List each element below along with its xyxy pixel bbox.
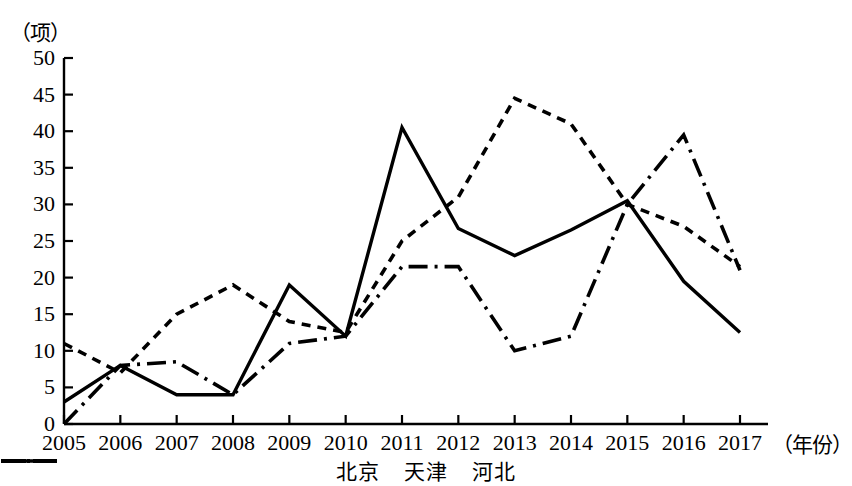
legend-item-天津[interactable]: 天津 xyxy=(404,455,448,485)
data-series xyxy=(64,98,740,424)
legend-swatch-dashdot xyxy=(0,455,58,467)
legend-label: 河北 xyxy=(472,455,516,485)
legend-label: 北京 xyxy=(336,455,380,485)
legend-item-北京[interactable]: 北京 xyxy=(336,455,380,485)
series-line-河北 xyxy=(64,135,740,424)
line-chart: （项） （年份） 05101520253035404550 2005200620… xyxy=(0,0,852,486)
axes xyxy=(64,58,768,424)
plot-area xyxy=(0,0,852,486)
legend-label: 天津 xyxy=(404,455,448,485)
chart-legend: 北京天津河北 xyxy=(0,455,852,485)
legend-item-河北[interactable]: 河北 xyxy=(472,455,516,485)
series-line-天津 xyxy=(64,98,740,373)
